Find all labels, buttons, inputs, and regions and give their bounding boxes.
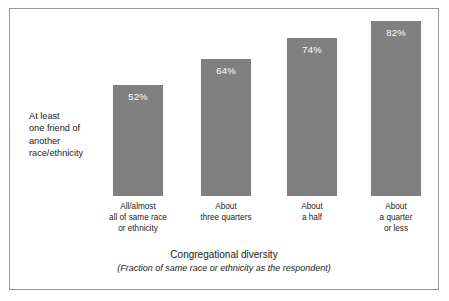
category-label-line-2: three quarters <box>178 212 274 223</box>
y-axis-label-line-1: At least <box>29 110 111 122</box>
category-label-all-almost-all-same-race: All/almost all of same race or ethnicity <box>90 201 186 235</box>
category-label-about-a-quarter-or-less: About a quarter or less <box>348 201 444 235</box>
category-label-line-1: About <box>264 201 360 212</box>
category-label-line-1: About <box>348 201 444 212</box>
category-label-line-1: About <box>178 201 274 212</box>
bar-value-label: 82% <box>371 27 421 38</box>
category-label-about-a-half: About a half <box>264 201 360 223</box>
chart-figure: At least one friend of another race/ethn… <box>0 0 449 301</box>
category-label-about-three-quarters: About three quarters <box>178 201 274 223</box>
bar-value-label: 52% <box>113 91 163 102</box>
category-label-line-2: all of same race <box>90 212 186 223</box>
category-label-line-3: or ethnicity <box>90 223 186 234</box>
category-label-line-2: a quarter <box>348 212 444 223</box>
x-axis-title: Congregational diversity <box>9 248 439 261</box>
category-label-line-1: All/almost <box>90 201 186 212</box>
bar-about-a-quarter-or-less: 82% <box>371 21 421 196</box>
bar-value-label: 74% <box>287 44 337 55</box>
y-axis-label-line-3: another <box>29 135 111 147</box>
y-axis-label-line-2: one friend of <box>29 122 111 134</box>
category-label-line-3: or less <box>348 223 444 234</box>
y-axis-label-line-4: race/ethnicity <box>29 147 111 159</box>
bar-value-label: 64% <box>201 65 251 76</box>
category-label-line-2: a half <box>264 212 360 223</box>
y-axis-label: At least one friend of another race/ethn… <box>29 110 111 160</box>
bar-all-almost-all-same-race: 52% <box>113 85 163 196</box>
x-axis-subtitle: (Fraction of same race or ethnicity as t… <box>9 262 439 274</box>
bar-about-a-half: 74% <box>287 38 337 196</box>
bar-about-three-quarters: 64% <box>201 59 251 196</box>
bar-chart-plot-area: At least one friend of another race/ethn… <box>0 0 449 301</box>
